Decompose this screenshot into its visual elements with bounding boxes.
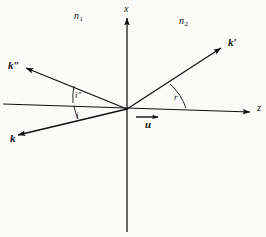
incident-wavevector-symbol: k	[10, 132, 16, 144]
incident-ray	[18, 109, 127, 135]
incidence-angle-label: i	[76, 111, 79, 120]
medium-n1-label: n1	[74, 11, 83, 23]
reflected-wavevector-label: k″	[8, 60, 20, 71]
medium-n2-subscript: 2	[184, 20, 188, 28]
reflection-angle-arc	[73, 86, 74, 103]
reflection-angle-label: i″	[75, 91, 81, 100]
refracted-wavevector-label: k′	[228, 37, 237, 48]
x-axis-label: x	[124, 4, 128, 14]
incident-wavevector-label: k	[10, 133, 16, 144]
refraction-angle-symbol: r	[174, 92, 178, 102]
refracted-wavevector-prime: ′	[234, 36, 237, 48]
incidence-angle-symbol: i	[76, 110, 79, 120]
refraction-diagram: x z n1 n2 k k″ k′ i i″ r u	[0, 0, 266, 237]
reflection-angle-prime: ″	[78, 90, 82, 100]
velocity-label: u	[145, 119, 151, 130]
reflected-ray	[26, 68, 127, 109]
medium-n1-subscript: 1	[79, 15, 83, 23]
refraction-angle-arc	[170, 84, 186, 108]
refraction-angle-label: r	[174, 93, 178, 102]
z-axis-label: z	[257, 103, 261, 113]
diagram-canvas	[0, 0, 266, 237]
reflected-wavevector-prime: ″	[14, 59, 20, 71]
medium-n2-label: n2	[179, 16, 188, 28]
